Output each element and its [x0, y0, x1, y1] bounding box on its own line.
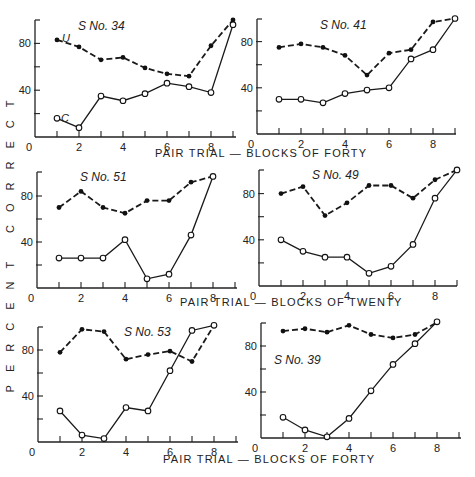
data-point-open — [344, 254, 350, 260]
y-tick-label: 40 — [245, 386, 257, 398]
y-tick-label: 80 — [19, 37, 31, 49]
data-point-filled — [343, 53, 348, 58]
data-point-filled — [124, 357, 129, 362]
panel-34: 408002468S No. 34UC — [19, 18, 236, 153]
data-point-open — [230, 22, 236, 28]
data-point-open — [211, 322, 217, 328]
data-point-open — [408, 56, 414, 62]
data-point-open — [410, 242, 416, 248]
data-point-open — [280, 415, 286, 421]
data-point-filled — [433, 177, 438, 182]
y-tick-label: 40 — [243, 234, 255, 246]
x-tick-label: 0 — [28, 292, 34, 304]
data-point-filled — [77, 45, 82, 50]
x-tick-label: 6 — [390, 442, 396, 454]
data-point-open — [186, 84, 192, 90]
y-tick-label: 40 — [19, 84, 31, 96]
x-tick-label: 0 — [29, 446, 35, 458]
y-tick-label: 80 — [245, 340, 257, 352]
data-point-filled — [79, 189, 84, 194]
y-tick-label: 80 — [21, 190, 33, 202]
series-c-line — [57, 25, 233, 128]
panel-title: S No. 39 — [274, 353, 321, 367]
x-tick-label: 4 — [120, 141, 126, 153]
data-point-open — [122, 237, 128, 243]
panel-53: 408002468S No. 53 — [22, 322, 238, 458]
series-label-u: U — [62, 32, 70, 44]
data-point-filled — [277, 45, 282, 50]
data-point-filled — [190, 359, 195, 364]
panel-title: S No. 49 — [312, 168, 359, 182]
data-point-open — [208, 90, 214, 96]
data-point-filled — [145, 198, 150, 203]
data-point-open — [320, 100, 326, 106]
data-point-open — [145, 408, 151, 414]
data-point-filled — [281, 329, 286, 334]
series-label-c: C — [61, 112, 69, 124]
data-point-filled — [301, 184, 306, 189]
data-point-filled — [387, 51, 392, 56]
data-point-filled — [99, 57, 104, 62]
x-tick-label: 8 — [434, 442, 440, 454]
y-tick-label: 40 — [241, 82, 253, 94]
data-point-open — [434, 319, 440, 325]
data-point-open — [54, 115, 60, 121]
data-point-open — [412, 341, 418, 347]
data-point-filled — [389, 183, 394, 188]
series-u-line — [279, 19, 455, 76]
data-point-filled — [367, 183, 372, 188]
data-point-open — [364, 87, 370, 93]
data-point-filled — [146, 352, 151, 357]
data-point-open — [386, 85, 392, 91]
data-point-filled — [58, 350, 63, 355]
figure: 408002468S No. 34UC408002468S No. 414080… — [0, 0, 475, 477]
data-point-open — [142, 91, 148, 97]
x-tick-label: 2 — [79, 446, 85, 458]
x-tick-label: 6 — [386, 138, 392, 150]
data-point-open — [432, 195, 438, 201]
data-point-filled — [123, 211, 128, 216]
data-point-filled — [189, 180, 194, 185]
data-point-open — [390, 362, 396, 368]
panel-39: 408002468S No. 39 — [245, 319, 461, 454]
y-tick-label: 40 — [21, 236, 33, 248]
data-point-filled — [209, 43, 214, 48]
panel-title: S No. 51 — [80, 170, 127, 184]
panel-title: S No. 53 — [124, 325, 171, 339]
data-point-open — [452, 16, 458, 22]
data-point-open — [164, 80, 170, 86]
x-axis-title: PAIR TRIAL — BLOCKS OF TWENTY — [180, 296, 403, 308]
data-point-open — [98, 93, 104, 99]
panel-grid-chart: 408002468S No. 34UC408002468S No. 414080… — [0, 0, 475, 477]
data-point-filled — [411, 196, 416, 201]
data-point-filled — [391, 336, 396, 341]
data-point-open — [366, 270, 372, 276]
y-tick-label: 80 — [241, 36, 253, 48]
data-point-open — [189, 328, 195, 334]
data-point-open — [78, 255, 84, 261]
data-point-open — [120, 98, 126, 104]
panel-41: 408002468S No. 41 — [241, 16, 458, 150]
data-point-open — [167, 368, 173, 374]
data-point-open — [276, 97, 282, 103]
data-point-filled — [165, 71, 170, 76]
data-point-open — [144, 276, 150, 282]
data-point-filled — [413, 332, 418, 337]
x-axis-title: PAIR TRIAL — BLOCKS OF FORTY — [155, 147, 367, 159]
data-point-filled — [102, 329, 107, 334]
data-point-open — [166, 271, 172, 277]
data-point-filled — [101, 205, 106, 210]
data-point-filled — [369, 332, 374, 337]
data-point-open — [302, 427, 308, 433]
data-point-filled — [325, 330, 330, 335]
panel-49: 408002468S No. 49 — [243, 167, 460, 302]
data-point-filled — [167, 198, 172, 203]
data-point-filled — [57, 205, 62, 210]
x-tick-label: 0 — [26, 141, 32, 153]
data-point-filled — [55, 37, 60, 42]
y-tick-label: 80 — [243, 188, 255, 200]
data-point-filled — [303, 326, 308, 331]
data-point-open — [76, 125, 82, 131]
series-c-line — [283, 322, 437, 437]
x-tick-label: 2 — [76, 141, 82, 153]
